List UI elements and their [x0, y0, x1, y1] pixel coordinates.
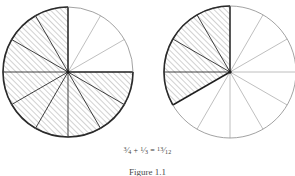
- circle-center-point: [228, 70, 231, 73]
- sector-spoke: [68, 16, 101, 72]
- sector-spoke: [230, 39, 287, 72]
- fraction-denominator: 3: [145, 149, 148, 155]
- right-circle-group: [164, 6, 295, 138]
- fraction-thirteen-twelfths: 13⁄12: [157, 143, 171, 158]
- circle-center-point: [66, 70, 69, 73]
- sector-spoke: [230, 15, 263, 72]
- plus-operator: +: [132, 145, 141, 157]
- sector-spoke: [230, 72, 263, 129]
- fraction-denominator: 12: [165, 149, 171, 155]
- figure-caption: Figure 1.1: [0, 167, 295, 176]
- equals-operator: =: [148, 145, 157, 157]
- sector-spoke: [68, 40, 124, 73]
- figure-container: 3⁄4+1⁄3=13⁄12 Figure 1.1: [0, 0, 295, 176]
- fraction-denominator: 4: [128, 149, 131, 155]
- fraction-one-third: 1⁄3: [140, 143, 148, 158]
- left-circle-group: [3, 7, 133, 137]
- fraction-three-quarters: 3⁄4: [124, 143, 132, 158]
- sector-spoke: [230, 72, 287, 105]
- equation-text: 3⁄4+1⁄3=13⁄12: [0, 143, 295, 158]
